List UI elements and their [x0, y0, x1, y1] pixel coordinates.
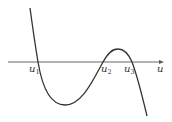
function-graph: u1 u2 u3 u	[0, 0, 172, 122]
root-label-u2: u2	[101, 63, 112, 76]
axis-label: u	[157, 63, 163, 74]
